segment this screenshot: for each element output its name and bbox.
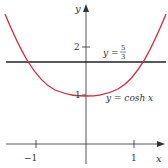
y-tick-label-1: 1 (75, 90, 81, 100)
x-axis-arrow-icon (157, 141, 165, 147)
annotation-cosh: y = cosh x (105, 93, 153, 103)
x-tick-label-1: 1 (131, 153, 137, 163)
x-axis-label: x (156, 153, 162, 164)
svg-text:3: 3 (121, 53, 125, 61)
y-axis (82, 4, 90, 164)
annotation-y-5-3: y = 5 3 (102, 44, 126, 61)
x-axis (6, 140, 165, 148)
svg-text:y =: y = (102, 48, 119, 58)
chart: y x −1 1 2 1 y = 5 3 y = cosh x (0, 0, 168, 168)
y-axis-label: y (74, 3, 81, 14)
y-axis-arrow-icon (83, 4, 89, 12)
x-tick-label-neg1: −1 (24, 153, 37, 163)
y-tick-label-2: 2 (74, 42, 80, 52)
svg-text:5: 5 (121, 44, 125, 52)
cosh-curve (5, 14, 166, 96)
